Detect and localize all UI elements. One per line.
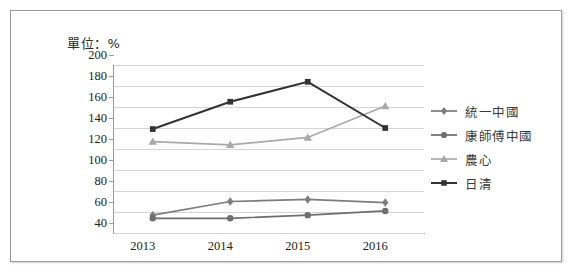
y-axis-tick-mark <box>109 118 114 119</box>
data-point-marker <box>441 180 447 186</box>
y-axis-tick-mark <box>109 97 114 98</box>
figure-frame: 單位：% 406080100120140160180200 2013201420… <box>10 10 562 262</box>
legend-marker-diamond-icon <box>429 103 459 119</box>
chart-legend: 統一中國康師傅中國農心日清 <box>429 99 559 195</box>
y-axis-tick-mark <box>109 76 114 77</box>
x-axis-tick-label: 2016 <box>345 239 405 254</box>
gridline <box>114 233 424 234</box>
data-point-marker <box>382 125 388 131</box>
data-point-marker <box>227 99 233 105</box>
legend-label: 康師傅中國 <box>459 126 533 145</box>
data-point-marker <box>150 126 156 132</box>
y-axis-tick-label: 200 <box>61 48 107 63</box>
x-axis-tick-label: 2014 <box>190 239 250 254</box>
y-axis-tick-mark <box>109 160 114 161</box>
legend-label: 農心 <box>459 150 492 169</box>
data-point-marker <box>381 102 390 109</box>
y-axis-tick-label: 140 <box>61 111 107 126</box>
series-line <box>153 106 386 145</box>
data-point-marker <box>305 212 311 218</box>
legend-item[interactable]: 日清 <box>429 171 559 195</box>
data-point-marker <box>441 132 447 138</box>
legend-marker-circle-icon <box>429 127 459 143</box>
data-point-marker <box>305 79 311 85</box>
legend-marker-triangle-icon <box>429 151 459 167</box>
x-axis-tick-label: 2013 <box>113 239 173 254</box>
y-axis-tick-label: 180 <box>61 69 107 84</box>
data-point-marker <box>227 215 233 221</box>
series-layer <box>114 65 424 233</box>
plot-area <box>114 65 424 233</box>
y-axis-tick-mark <box>109 55 114 56</box>
y-axis-tick-label: 80 <box>61 174 107 189</box>
y-axis-tick-label: 60 <box>61 195 107 210</box>
legend-label: 日清 <box>459 174 492 193</box>
series-line <box>153 82 386 129</box>
x-axis-tick-label: 2015 <box>268 239 328 254</box>
data-point-marker <box>441 107 447 115</box>
legend-marker-square-icon <box>429 175 459 191</box>
legend-item[interactable]: 農心 <box>429 147 559 171</box>
y-axis-tick-mark <box>109 181 114 182</box>
y-axis-tick-label: 40 <box>61 216 107 231</box>
series-square <box>150 79 388 132</box>
y-axis-tick-label: 120 <box>61 132 107 147</box>
data-point-marker <box>227 197 233 206</box>
legend-item[interactable]: 統一中國 <box>429 99 559 123</box>
y-axis-tick-mark <box>109 139 114 140</box>
y-axis-tick-mark <box>109 223 114 224</box>
y-axis-tick-mark <box>109 202 114 203</box>
data-point-marker <box>305 195 311 204</box>
legend-label: 統一中國 <box>459 102 519 121</box>
y-axis-tick-labels: 406080100120140160180200 <box>57 11 107 275</box>
legend-item[interactable]: 康師傅中國 <box>429 123 559 147</box>
series-diamond <box>150 195 389 219</box>
data-point-marker <box>382 208 388 214</box>
y-axis-tick-label: 160 <box>61 90 107 105</box>
data-point-marker <box>150 215 156 221</box>
y-axis-tick-label: 100 <box>61 153 107 168</box>
data-point-marker <box>382 198 388 207</box>
series-line <box>153 211 386 218</box>
chart-figure: 單位：% 406080100120140160180200 2013201420… <box>0 0 573 275</box>
